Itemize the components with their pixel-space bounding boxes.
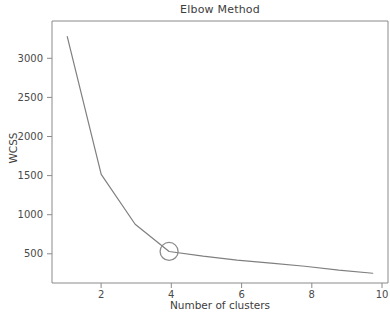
x-axis-ticks — [101, 283, 382, 288]
y-tick-label: 1000 — [18, 209, 43, 220]
axes-frame — [52, 21, 388, 283]
y-tick-label: 500 — [24, 248, 43, 259]
y-tick-label: 2500 — [18, 92, 43, 103]
wcss-elbow-line — [67, 37, 372, 274]
elbow-method-chart-figure: Elbow Method 500 1000 1500 2000 2500 300… — [0, 0, 390, 318]
x-axis-label: Number of clusters — [52, 299, 388, 311]
y-axis-label: WCSS — [7, 118, 19, 178]
y-axis-tick-labels: 500 1000 1500 2000 2500 3000 — [18, 53, 43, 260]
plot-area: 500 1000 1500 2000 2500 3000 2 4 6 8 10 — [0, 0, 390, 318]
y-tick-label: 2000 — [18, 131, 43, 142]
y-tick-label: 3000 — [18, 53, 43, 64]
y-tick-label: 1500 — [18, 170, 43, 181]
y-axis-ticks — [47, 58, 52, 254]
